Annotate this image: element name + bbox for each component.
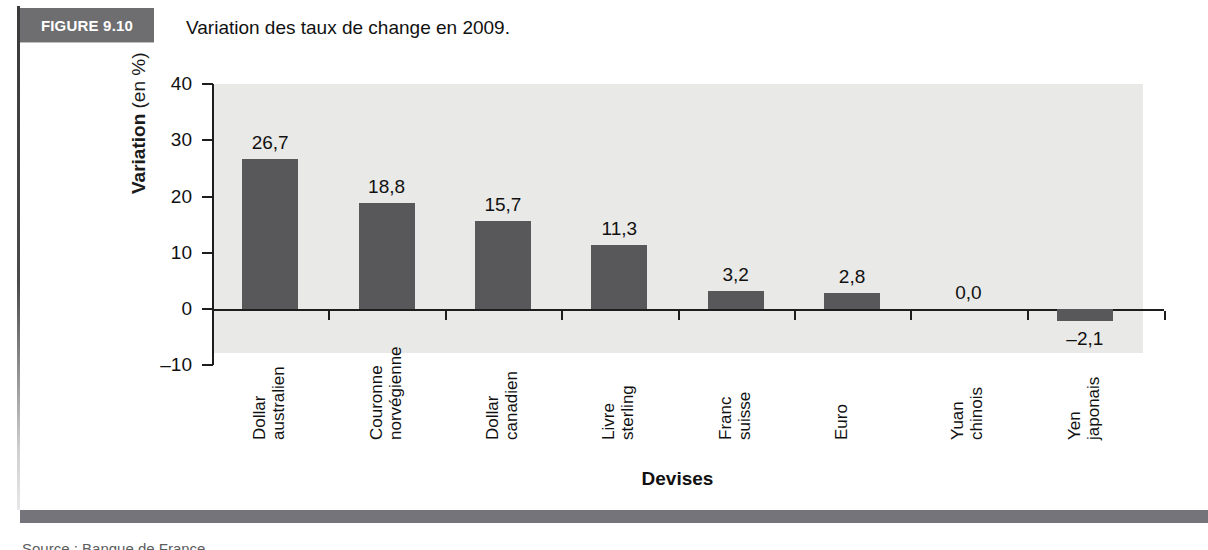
bar <box>475 221 531 309</box>
category-label-line: Euro <box>832 404 851 440</box>
x-axis-end-cap <box>1164 311 1166 320</box>
bar-value-label: 18,8 <box>327 177 447 196</box>
y-axis-tick-label: –10 <box>132 355 192 374</box>
x-axis-category-label: Couronnenorvégienne <box>367 346 405 440</box>
category-label-line: Dollar <box>483 371 502 440</box>
x-axis-tick <box>1027 311 1029 320</box>
x-axis-tick <box>328 311 330 320</box>
x-axis-tick <box>910 311 912 320</box>
category-label-line: suisse <box>735 392 754 440</box>
footer-rule <box>20 510 1208 523</box>
bar-value-label: 2,8 <box>792 267 912 286</box>
figure-page: FIGURE 9.10 Variation des taux de change… <box>0 0 1208 550</box>
bar-value-label: 11,3 <box>559 219 679 238</box>
y-axis-line-extension <box>212 84 214 365</box>
source-caption-clipped: Source : Banque de France <box>22 541 522 550</box>
category-label-line: norvégienne <box>386 346 405 440</box>
figure-header: FIGURE 9.10 Variation des taux de change… <box>20 8 510 48</box>
bar <box>359 203 415 309</box>
category-label-line: chinois <box>967 387 986 440</box>
x-axis-tick <box>561 311 563 320</box>
bar-value-label: –2,1 <box>1025 329 1145 348</box>
chart-container: Variation (en %) Devises 403020100–1026,… <box>20 62 1188 492</box>
category-label-line: canadien <box>502 371 521 440</box>
x-axis-category-label: Francsuisse <box>716 392 754 440</box>
bar-value-label: 0,0 <box>908 283 1028 302</box>
bar <box>1057 309 1113 321</box>
x-axis-category-label: Dollaraustralien <box>250 366 288 440</box>
y-axis-title-main: Variation <box>128 114 149 194</box>
category-label-line: Yuan <box>948 387 967 440</box>
bar-value-label: 3,2 <box>676 265 796 284</box>
y-axis-tick-label: 40 <box>132 74 192 93</box>
figure-title: Variation des taux de change en 2009. <box>186 8 510 48</box>
category-label-line: Franc <box>716 392 735 440</box>
y-axis-tick-label: 20 <box>132 187 192 206</box>
bar <box>242 159 298 309</box>
x-axis-category-label: Yenjaponais <box>1065 377 1103 440</box>
y-axis-tick-label: 30 <box>132 130 192 149</box>
x-axis-tick <box>445 311 447 320</box>
category-label-line: Couronne <box>367 346 386 440</box>
category-label-line: Dollar <box>250 366 269 440</box>
category-label-line: Yen <box>1065 377 1084 440</box>
category-label-line: sterling <box>618 385 637 440</box>
category-label-line: Livre <box>599 385 618 440</box>
x-axis-title: Devises <box>212 468 1143 490</box>
y-axis-tick-label: 10 <box>132 243 192 262</box>
category-label-line: japonais <box>1084 377 1103 440</box>
category-label-line: australien <box>269 366 288 440</box>
x-axis-category-label: Euro <box>832 404 851 440</box>
y-axis-tick-label: 0 <box>132 299 192 318</box>
bar <box>824 293 880 309</box>
x-axis-category-label: Dollarcanadien <box>483 371 521 440</box>
figure-number-badge: FIGURE 9.10 <box>20 8 154 42</box>
bar-value-label: 15,7 <box>443 195 563 214</box>
x-axis-tick <box>794 311 796 320</box>
zero-baseline <box>212 309 1164 311</box>
x-axis-category-label: Yuanchinois <box>948 387 986 440</box>
x-axis-tick <box>678 311 680 320</box>
bar <box>591 245 647 309</box>
x-axis-category-label: Livresterling <box>599 385 637 440</box>
bar <box>708 291 764 309</box>
bar-value-label: 26,7 <box>210 133 330 152</box>
